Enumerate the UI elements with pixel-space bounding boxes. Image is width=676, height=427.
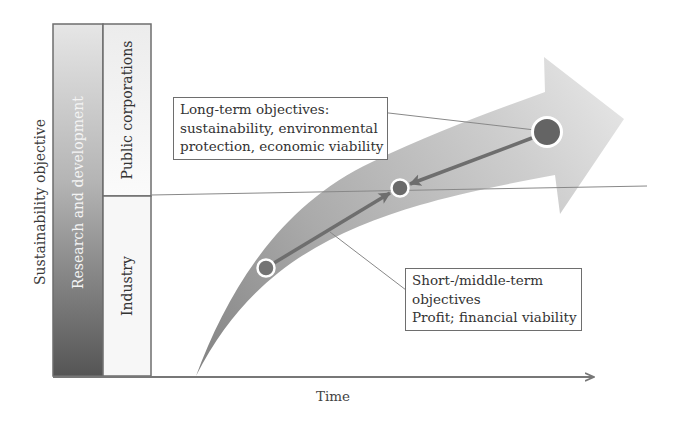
callout-line: sustainability, environmental: [180, 119, 383, 138]
diagram-canvas: [0, 0, 676, 427]
callout-line: Long-term objectives:: [180, 100, 383, 119]
short-term-objectives-callout: Short-/middle-term objectives Profit; fi…: [405, 268, 582, 331]
callout-line: Profit; financial viability: [412, 308, 577, 327]
public-corporations-label: Public corporations: [118, 37, 136, 183]
industry-label: Industry: [118, 246, 136, 326]
sector-columns: [53, 24, 151, 376]
meeting-point: [392, 180, 409, 197]
research-column-label: Research and development: [69, 109, 87, 289]
y-axis-label: Sustainability objective: [31, 125, 49, 285]
long-term-objectives-callout: Long-term objectives: sustainability, en…: [173, 97, 388, 160]
public-point: [533, 118, 562, 147]
callout-line: objectives: [412, 290, 577, 309]
short-term-leader-line: [330, 232, 406, 290]
callout-line: protection, economic viability: [180, 137, 383, 156]
callout-line: Short-/middle-term: [412, 271, 577, 290]
x-axis-label: Time: [316, 388, 350, 404]
industry-point: [258, 260, 275, 277]
